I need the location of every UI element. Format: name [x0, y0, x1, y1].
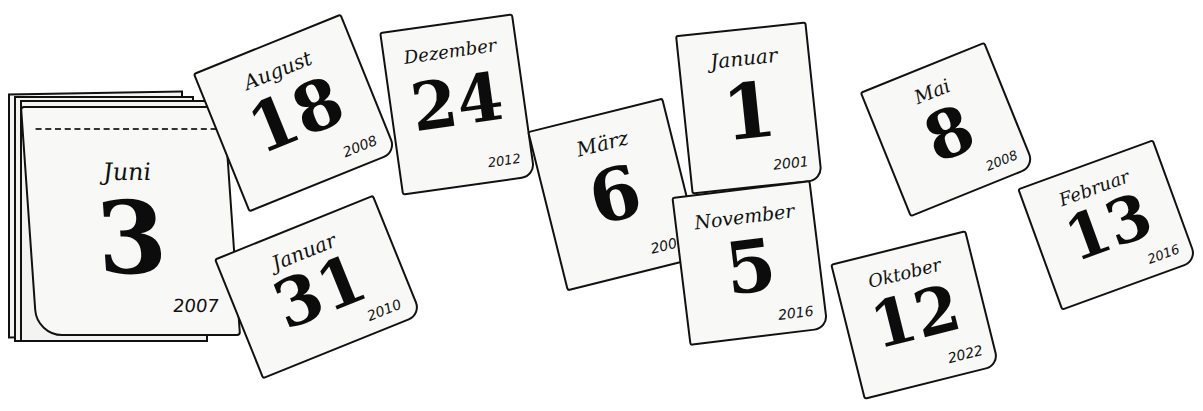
page-year: 2012 — [487, 151, 522, 170]
page-day: 31 — [230, 230, 410, 354]
calendar-page-mai-8: Mai 8 2008 — [860, 42, 1036, 218]
calendar-page-maerz-6: März 6 2009 — [527, 98, 703, 292]
page-day: 3 — [28, 188, 236, 288]
calendar-page-november-5: November 5 2016 — [671, 180, 828, 346]
page-day: 1 — [682, 67, 817, 156]
page-day: 18 — [211, 54, 381, 175]
calendar-page-dezember-24: Dezember 24 2012 — [379, 13, 536, 195]
calendar-page-februar-13: Februar 13 2016 — [1017, 139, 1198, 311]
page-year: 2007 — [172, 295, 219, 316]
calendar-page-januar-31: Januar 31 2010 — [214, 195, 422, 380]
calendar-page-oktober-12: Oktober 12 2022 — [830, 230, 1000, 400]
page-year: 2001 — [772, 153, 809, 173]
perforation-line — [36, 128, 217, 130]
page-year: 2016 — [777, 302, 814, 322]
calendar-page-januar-1: Januar 1 2001 — [675, 22, 823, 195]
calendar-page-juni-3: Juni 3 2007 — [20, 106, 241, 336]
page-year: 2022 — [946, 342, 984, 366]
page-day: 24 — [388, 60, 527, 144]
calendar-block: Juni 3 2007 — [8, 92, 240, 344]
page-day: 5 — [679, 223, 823, 311]
